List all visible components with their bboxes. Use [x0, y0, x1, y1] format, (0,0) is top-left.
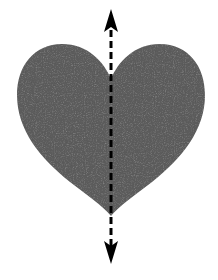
arrow-up-icon: [104, 9, 118, 32]
diagram-canvas: [0, 0, 218, 280]
symmetry-diagram: [0, 0, 218, 280]
